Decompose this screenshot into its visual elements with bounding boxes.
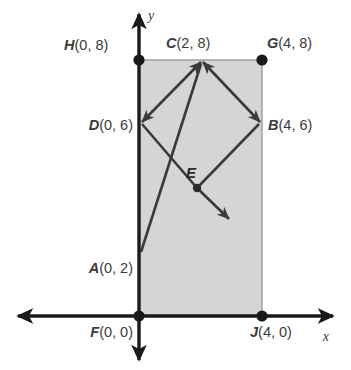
point-dot-E <box>193 184 201 192</box>
point-coords-D: (0, 6) <box>99 117 133 133</box>
point-coords-C: (2, 8) <box>176 35 210 51</box>
point-label-J: J(4, 0) <box>250 324 292 340</box>
point-name-G: G <box>267 35 278 51</box>
axis-label-x: x <box>322 329 330 344</box>
point-label-G: G(4, 8) <box>267 35 312 51</box>
geometry-figure: H(0, 8) C(2, 8) G(4, 8) D(0, 6) B(4, 6) … <box>0 0 351 370</box>
point-label-B: B(4, 6) <box>268 117 312 133</box>
point-dot-G <box>256 54 267 65</box>
point-coords-G: (4, 8) <box>278 35 312 51</box>
point-coords-F: (0, 0) <box>99 324 133 340</box>
point-name-C: C <box>166 35 177 51</box>
point-label-C: C(2, 8) <box>166 35 210 51</box>
point-name-B: B <box>268 117 278 133</box>
point-label-E: E <box>186 164 197 181</box>
point-name-D: D <box>89 117 100 133</box>
point-coords-J: (4, 0) <box>258 324 292 340</box>
point-name-A: A <box>88 260 99 276</box>
point-dot-F <box>133 310 144 321</box>
coordinate-plane-diagram: H(0, 8) C(2, 8) G(4, 8) D(0, 6) B(4, 6) … <box>0 0 351 370</box>
point-coords-H: (0, 8) <box>74 37 108 53</box>
axis-label-y: y <box>146 8 155 23</box>
point-label-A: A(0, 2) <box>88 260 133 276</box>
point-label-H: H(0, 8) <box>64 37 108 53</box>
point-label-D: D(0, 6) <box>89 117 133 133</box>
point-dot-J <box>256 310 267 321</box>
point-label-F: F(0, 0) <box>90 324 133 340</box>
point-dot-H <box>133 54 144 65</box>
point-coords-A: (0, 2) <box>99 260 133 276</box>
point-coords-B: (4, 6) <box>278 117 312 133</box>
point-name-H: H <box>64 37 75 53</box>
